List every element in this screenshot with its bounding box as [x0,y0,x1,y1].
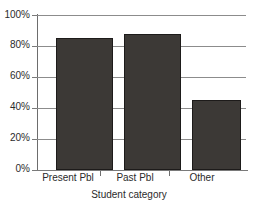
x-label-past-pbl: Past Pbl [107,172,163,184]
bar-present-pbl [56,38,113,170]
x-axis-title: Student category [0,189,258,200]
plot-area [37,15,246,170]
y-tick-label-0: 0% [0,164,30,174]
x-label-other: Other [173,172,231,184]
x-label-present-pbl: Present Pbl [38,172,98,184]
y-tick-label-20: 20% [0,133,30,143]
gridline-100 [37,15,246,16]
y-tick-label-40: 40% [0,102,30,112]
x-axis-line [36,170,248,171]
bar-other [192,100,241,170]
y-tick-label-100: 100% [0,10,30,20]
bar-chart: 100% 80% 60% 40% 20% 0% Present Pbl Past… [0,0,258,219]
y-tick-label-60: 60% [0,71,30,81]
x-tick-1 [100,171,101,176]
y-tick-label-80: 80% [0,40,30,50]
x-tick-2 [169,171,170,176]
bar-past-pbl [124,34,181,170]
y-axis-labels: 100% 80% 60% 40% 20% 0% [0,0,30,219]
